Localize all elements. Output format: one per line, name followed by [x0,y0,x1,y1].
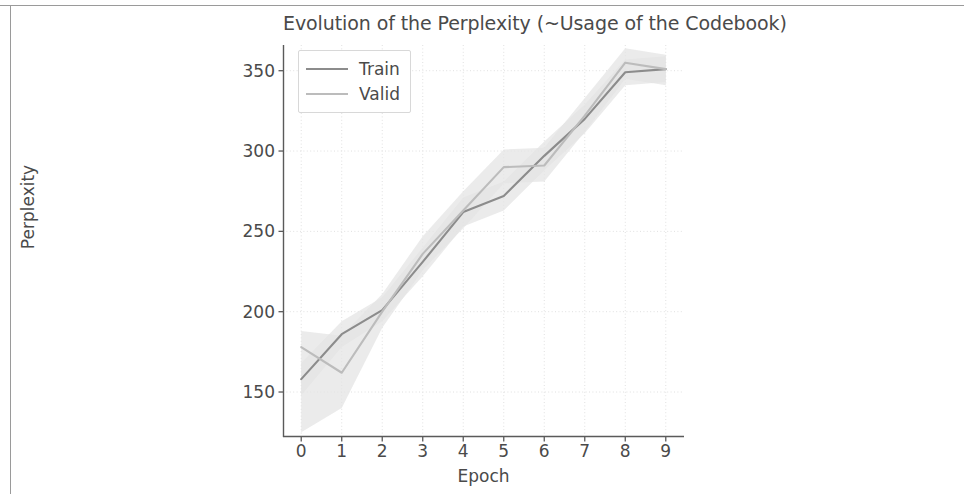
x-tick-label: 2 [377,441,388,461]
y-axis-title: Perplexity [18,117,38,297]
legend-swatch-valid [306,93,348,95]
y-tick-label: 150 [243,382,275,402]
x-axis-tick-labels: 0123456789 [283,441,684,465]
x-tick-label: 4 [458,441,469,461]
x-axis-title: Epoch [283,466,684,486]
y-axis-tick-labels: 150200250300350 [213,45,275,437]
legend-item-valid[interactable]: Valid [306,81,400,106]
legend-label-train: Train [359,59,400,79]
legend-item-train[interactable]: Train [306,56,400,81]
legend-swatch-train [306,68,348,70]
x-tick-label: 6 [539,441,550,461]
x-tick-label: 0 [296,441,307,461]
x-tick-label: 8 [620,441,631,461]
legend-label-valid: Valid [359,84,400,104]
x-tick-label: 9 [660,441,671,461]
x-tick-label: 3 [417,441,428,461]
y-tick-label: 300 [243,141,275,161]
chart-legend: Train Valid [298,50,411,113]
x-tick-label: 5 [498,441,509,461]
x-tick-label: 7 [579,441,590,461]
y-tick-label: 250 [243,221,275,241]
perplexity-chart-figure: Evolution of the Perplexity (~Usage of t… [0,0,964,494]
page-title: Evolution of the Perplexity (~Usage of t… [283,12,684,34]
y-tick-label: 350 [243,61,275,81]
y-tick-label: 200 [243,302,275,322]
x-tick-label: 1 [336,441,347,461]
